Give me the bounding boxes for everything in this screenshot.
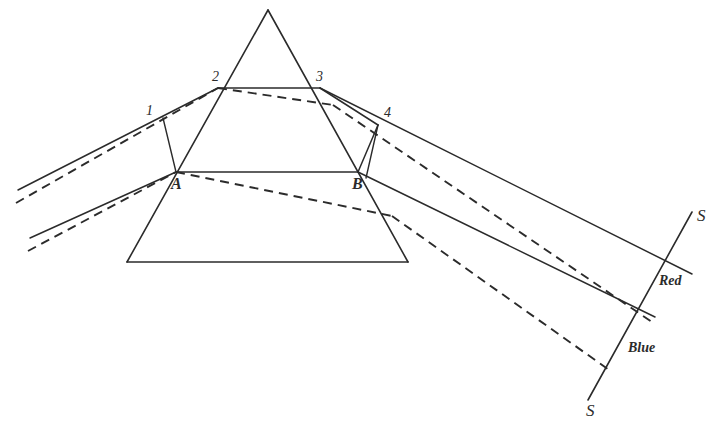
prism-right-face	[268, 10, 408, 262]
emergent-rays-blue	[333, 105, 652, 372]
label-screen-top: S	[697, 207, 706, 224]
label-point-2: 2	[212, 70, 219, 84]
wavefront-segment-4-to-b	[366, 125, 378, 178]
label-point-b: B	[352, 176, 363, 192]
wavefront-segment-1-to-a	[163, 118, 176, 172]
emergent-ray-lower-blue	[392, 216, 612, 372]
emergent-ray-lower-red	[358, 172, 655, 317]
label-screen-bottom: S	[586, 402, 595, 419]
emergent-ray-b-to-4	[358, 125, 378, 172]
prism-outline	[127, 10, 408, 262]
screen-ss-line	[588, 212, 692, 400]
screen-line	[588, 212, 692, 400]
label-point-a: A	[171, 176, 182, 192]
label-blue-band: Blue	[628, 341, 655, 355]
incident-rays-red	[18, 88, 218, 238]
label-point-4: 4	[384, 106, 391, 120]
prism-dispersion-figure: 1 2 3 4 A B S S Red Blue	[0, 0, 723, 434]
label-red-band: Red	[659, 274, 682, 288]
incident-rays-blue	[16, 88, 218, 251]
wavefront-markers	[163, 118, 378, 178]
internal-rays-red	[176, 88, 358, 172]
label-point-1: 1	[146, 104, 153, 118]
incident-ray-lower-red	[30, 172, 176, 238]
incident-ray-upper-red	[18, 88, 218, 190]
label-point-3: 3	[316, 70, 323, 84]
incident-ray-lower-blue	[28, 172, 176, 251]
incident-ray-upper-blue	[16, 88, 218, 203]
prism-left-face	[127, 10, 268, 262]
diagram-canvas	[0, 0, 723, 434]
